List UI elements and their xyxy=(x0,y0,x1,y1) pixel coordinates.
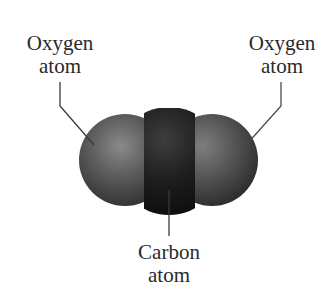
carbon-label-line2: atom xyxy=(125,264,213,287)
left-oxygen-label-line1: Oxygen xyxy=(18,32,102,55)
left-oxygen-label-line2: atom xyxy=(18,55,102,78)
carbon-label: Carbon atom xyxy=(125,241,213,287)
right-oxygen-leader-line xyxy=(246,82,281,145)
right-oxygen-label-line1: Oxygen xyxy=(240,32,324,55)
right-oxygen-label: Oxygen atom xyxy=(240,32,324,78)
carbon-label-line1: Carbon xyxy=(125,241,213,264)
right-oxygen-label-line2: atom xyxy=(240,55,324,78)
left-oxygen-label: Oxygen atom xyxy=(18,32,102,78)
